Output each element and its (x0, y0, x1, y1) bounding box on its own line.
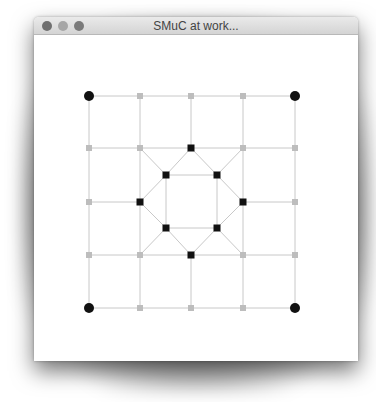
graph-edge (166, 148, 191, 175)
outer-node (86, 252, 92, 258)
corner-node (84, 303, 94, 313)
graph-edge (140, 228, 166, 255)
outer-node (240, 93, 246, 99)
outer-node (137, 145, 143, 151)
graph-edge (166, 228, 191, 255)
outer-node (86, 145, 92, 151)
inner-node (214, 172, 221, 179)
inner-node (188, 252, 195, 259)
window-title: SMuC at work... (34, 19, 358, 33)
graph-edge (217, 202, 243, 228)
outer-node (137, 252, 143, 258)
graph-edge (217, 148, 243, 175)
outer-node (292, 252, 298, 258)
corner-node (290, 91, 300, 101)
inner-node (137, 199, 144, 206)
inner-node (188, 145, 195, 152)
inner-node (214, 225, 221, 232)
inner-node (163, 225, 170, 232)
outer-node (86, 199, 92, 205)
outer-node (137, 305, 143, 311)
graph-edge (217, 175, 243, 202)
graph-edge (217, 228, 243, 255)
graph-edge (140, 148, 166, 175)
outer-node (240, 305, 246, 311)
outer-node (188, 305, 194, 311)
inner-node (240, 199, 247, 206)
outer-node (188, 93, 194, 99)
corner-node (290, 303, 300, 313)
outer-node (240, 252, 246, 258)
outer-node (240, 145, 246, 151)
app-window: SMuC at work... (34, 17, 358, 361)
corner-node (84, 91, 94, 101)
title-bar[interactable]: SMuC at work... (34, 17, 358, 35)
graph-edge (140, 202, 166, 228)
graph-canvas (34, 35, 358, 361)
outer-node (137, 93, 143, 99)
inner-node (163, 172, 170, 179)
graph-edge (191, 228, 217, 255)
outer-node (292, 199, 298, 205)
graph-edge (191, 148, 217, 175)
outer-node (292, 145, 298, 151)
graph-edge (140, 175, 166, 202)
